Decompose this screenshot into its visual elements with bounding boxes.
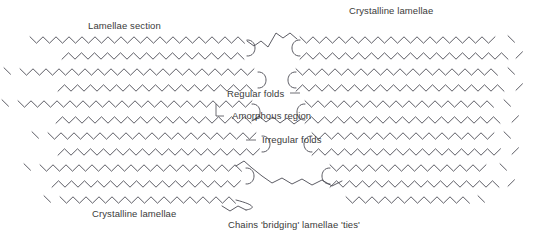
label-irregular-folds: Irregular folds: [262, 134, 322, 145]
polymer-chain-group: [2, 33, 523, 211]
label-lamellae-section: Lamellae section: [88, 20, 161, 31]
label-crystalline-lamellae-top: Crystalline lamellae: [349, 5, 433, 16]
polymer-lamellae-diagram: Lamellae section Crystalline lamellae Re…: [0, 0, 552, 240]
label-regular-folds: Regular folds: [227, 88, 284, 99]
label-amorphous-region: Amorphous region: [232, 110, 311, 121]
label-chains-bridging-ties: Chains 'bridging' lamellae 'ties': [228, 219, 360, 230]
label-crystalline-lamellae-bottom: Crystalline lamellae: [92, 208, 176, 219]
